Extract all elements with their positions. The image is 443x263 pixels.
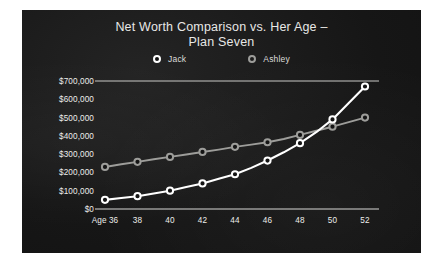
- slide-canvas: Net Worth Comparison vs. Her Age – Plan …: [0, 0, 443, 263]
- x-axis-tick-label: 42: [198, 216, 207, 225]
- x-axis-tick-label: 40: [165, 216, 174, 225]
- chart-panel: Net Worth Comparison vs. Her Age – Plan …: [22, 10, 421, 253]
- x-axis-tick-label: 52: [360, 216, 369, 225]
- x-axis-tick-label: Age 36: [92, 216, 119, 225]
- x-axis-tick-label: 38: [133, 216, 142, 225]
- x-axis-tick-label: 48: [295, 216, 304, 225]
- x-axis-tick-label: 46: [263, 216, 272, 225]
- x-axis-tick-label: 50: [328, 216, 337, 225]
- x-axis-tick-label: 44: [230, 216, 239, 225]
- x-axis-labels: Age 363840424446485052: [22, 10, 421, 253]
